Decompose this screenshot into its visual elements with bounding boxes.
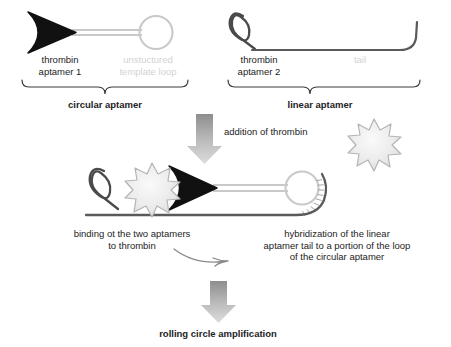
binding-caption: binding ot the two aptamers to thrombin <box>42 228 222 251</box>
aptamer-thrombin-complex-graphic <box>86 163 326 217</box>
hybridization-caption: hybridization of the linear aptamer tail… <box>237 228 437 263</box>
complex-thrombin-aptamer-1-icon <box>169 166 217 210</box>
curved-pointer-arrow-icon <box>174 249 228 266</box>
template-loop-stem-icon <box>72 30 142 35</box>
tail-label: tail <box>330 54 390 66</box>
complex-thrombin-aptamer-2-icon <box>90 169 118 209</box>
complex-template-loop-icon <box>213 172 319 205</box>
thrombin-aptamer-2-loop-icon <box>230 13 255 49</box>
thrombin-aptamer-1-label: thrombin aptamer 1 <box>17 54 103 77</box>
rolling-circle-amplification-label: rolling circle amplification <box>103 328 333 340</box>
linear-aptamer-brace-label: linear aptamer <box>240 99 400 111</box>
linear-aptamer-tail-icon <box>252 22 417 50</box>
circular-aptamer-brace-label: circular aptamer <box>25 99 185 111</box>
circular-aptamer-brace-icon <box>22 80 188 94</box>
figure-graphics-layer <box>0 0 451 347</box>
addition-of-thrombin-label: addition of thrombin <box>224 126 374 138</box>
addition-of-thrombin-arrow-icon <box>187 114 222 164</box>
rolling-circle-arrow-icon <box>201 281 236 323</box>
linear-aptamer-graphic <box>230 13 417 50</box>
thrombin-aptamer-2-label: thrombin aptamer 2 <box>214 54 304 77</box>
rolling-circle-amplification-figure: thrombin aptamer 1 unstuctured template … <box>0 0 451 347</box>
linear-aptamer-brace-icon <box>228 80 420 94</box>
template-loop-circle-icon <box>140 16 173 49</box>
circular-aptamer-graphic <box>28 12 173 53</box>
unstructured-template-loop-label: unstuctured template loop <box>93 54 203 77</box>
complex-linear-tail-icon <box>86 174 326 215</box>
thrombin-aptamer-1-arrowhead-icon <box>28 12 76 53</box>
